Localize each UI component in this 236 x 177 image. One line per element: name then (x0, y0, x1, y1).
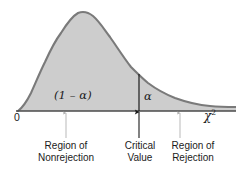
caption-nonrejection-line2: Nonrejection (16, 152, 116, 164)
x-axis-label-exponent: 2 (211, 108, 216, 117)
nonrejection-area-label: (1 – α) (54, 90, 92, 102)
caption-rejection-line2: Rejection (156, 152, 230, 164)
caption-nonrejection-line1: Region of (16, 140, 116, 152)
caption-rejection-line1: Region of (156, 140, 230, 152)
rejection-area-label: α (144, 91, 152, 103)
x-axis-label: χ2 (204, 110, 216, 122)
caption-region-of-nonrejection: Region of Nonrejection (16, 140, 116, 163)
axis-origin-label: 0 (14, 112, 20, 123)
chi-square-distribution-figure: 0 (1 – α) α χ2 Region of Nonrejection Cr… (0, 0, 236, 177)
caption-region-of-rejection: Region of Rejection (156, 140, 230, 163)
